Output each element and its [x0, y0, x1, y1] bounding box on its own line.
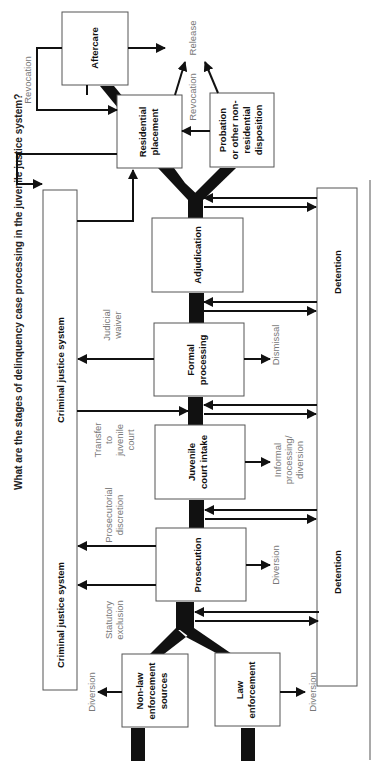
svg-text:residential: residential [241, 106, 252, 154]
svg-text:exclusion: exclusion [114, 600, 125, 640]
svg-text:waiver: waiver [112, 311, 123, 339]
svg-text:sources: sources [158, 673, 169, 709]
prosecution-node: Prosecution [156, 528, 246, 601]
svg-text:Dismissal: Dismissal [270, 325, 281, 366]
svg-text:enforcement: enforcement [246, 661, 257, 719]
detention-label-upper: Detention [332, 250, 343, 294]
svg-text:Diversion: Diversion [307, 672, 318, 712]
svg-text:processing/: processing/ [283, 435, 294, 484]
svg-text:juvenile: juvenile [114, 424, 125, 457]
svg-text:Statutory: Statutory [103, 601, 114, 639]
svg-text:diversion: diversion [294, 441, 305, 479]
svg-text:court intake: court intake [198, 435, 209, 489]
criminal-justice-label-lower: Criminal justice system [55, 562, 66, 668]
probation-node: Probation or other non- residential disp… [210, 93, 274, 167]
svg-text:Adjudication: Adjudication [192, 226, 203, 284]
svg-text:Judicial: Judicial [101, 309, 112, 341]
svg-text:Transfer: Transfer [92, 422, 103, 457]
juvenile-court-intake-node: Juvenile court intake [155, 425, 245, 499]
svg-text:processing: processing [197, 334, 208, 385]
svg-text:Prosecution: Prosecution [192, 537, 203, 592]
svg-text:Prosecutorial: Prosecutorial [103, 487, 114, 542]
residential-placement-node: Residential placement [117, 95, 182, 168]
svg-text:placement: placement [149, 108, 160, 156]
svg-text:Diversion: Diversion [86, 672, 97, 712]
svg-text:Diversion: Diversion [270, 545, 281, 585]
svg-text:Informal: Informal [272, 443, 283, 477]
juvenile-justice-flow-diagram: What are the stages of delinquency case … [0, 0, 376, 775]
criminal-justice-system-box: Criminal justice system Criminal justice… [43, 190, 77, 690]
svg-text:discretion: discretion [114, 495, 125, 536]
svg-text:Formal: Formal [185, 344, 196, 376]
svg-text:or other non-: or other non- [229, 100, 240, 159]
svg-text:enforcement: enforcement [146, 662, 157, 720]
svg-text:to: to [103, 436, 114, 444]
svg-text:disposition: disposition [253, 104, 264, 155]
criminal-justice-label-upper: Criminal justice system [55, 317, 66, 423]
svg-text:Revocation: Revocation [187, 73, 198, 121]
svg-text:Revocation: Revocation [22, 56, 33, 104]
svg-text:Release: Release [187, 21, 198, 56]
svg-text:court: court [125, 429, 136, 450]
svg-text:Non-law: Non-law [134, 672, 145, 710]
detention-box: Detention Detention [317, 188, 357, 686]
aftercare-node: Aftercare [62, 12, 128, 85]
adjudication-node: Adjudication [152, 218, 243, 292]
law-enforcement-node: Law enforcement [215, 653, 280, 726]
non-law-enforcement-node: Non-law enforcement sources [122, 654, 188, 727]
svg-text:Probation: Probation [217, 108, 228, 153]
svg-text:Juvenile: Juvenile [186, 443, 197, 481]
svg-text:Law: Law [234, 680, 245, 699]
formal-processing-node: Formal processing [154, 323, 244, 396]
detention-label-lower: Detention [332, 550, 343, 594]
svg-text:Residential: Residential [137, 107, 148, 158]
svg-text:Aftercare: Aftercare [89, 27, 100, 69]
